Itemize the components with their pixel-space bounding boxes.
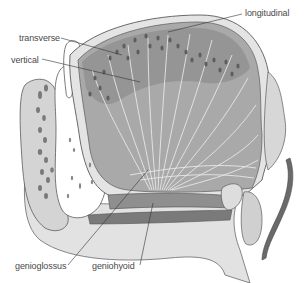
epiglottis-region bbox=[241, 192, 262, 245]
hyoid-bone bbox=[221, 184, 242, 210]
label-vertical: vertical bbox=[11, 56, 39, 65]
label-longitudinal: longitudinal bbox=[245, 9, 289, 18]
label-transverse: transverse bbox=[19, 34, 60, 43]
label-geniohyoid: geniohyoid bbox=[92, 262, 135, 271]
label-genioglossus: genioglossus bbox=[15, 262, 66, 271]
soft-palate bbox=[264, 72, 285, 170]
pharynx-wall bbox=[262, 158, 293, 260]
